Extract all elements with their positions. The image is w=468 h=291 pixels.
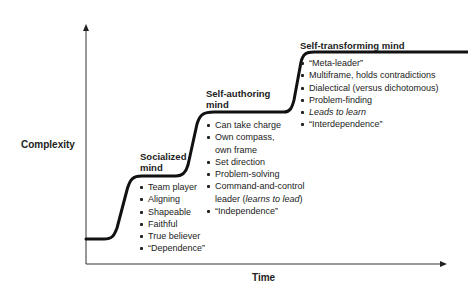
traits-list-socialized: Team player Aligning Shapeable Faithful … — [139, 181, 205, 255]
stage-title-line: Self-authoring — [206, 88, 270, 99]
y-axis-label: Complexity — [21, 139, 75, 150]
trait-item: Problem-finding — [300, 94, 439, 106]
trait-text: ) — [300, 194, 303, 204]
traits-list-self-authoring: Can take charge Own compass, own frame S… — [206, 119, 305, 217]
trait-item: “Interdependence” — [300, 118, 439, 130]
trait-item: Shapeable — [139, 206, 205, 218]
trait-item: Multiframe, holds contradictions — [300, 69, 439, 81]
trait-text: Own compass, — [215, 132, 275, 142]
trait-item: “Independence” — [206, 205, 305, 217]
stage-title-self-authoring: Self-authoring mind — [206, 88, 270, 110]
trait-item: Set direction — [206, 156, 305, 168]
stage-title-socialized: Socialized mind — [140, 151, 186, 173]
stage-title-line: Socialized — [140, 151, 186, 162]
stage-title-self-transforming: Self-transforming mind — [300, 40, 405, 51]
trait-item: Dialectical (versus dichotomous) — [300, 82, 439, 94]
x-axis-arrow-icon — [440, 261, 447, 267]
trait-item: Problem-solving — [206, 168, 305, 180]
trait-item: “Dependence” — [139, 242, 205, 254]
traits-list-self-transforming: “Meta-leader” Multiframe, holds contradi… — [300, 57, 439, 131]
trait-item: Faithful — [139, 218, 205, 230]
trait-text-italic: learns to lead — [246, 194, 300, 204]
stage-title-line: mind — [206, 99, 270, 110]
trait-item: Command-and-control leader (learns to le… — [206, 180, 305, 205]
trait-item: Leads to learn — [300, 106, 439, 118]
trait-text: own frame — [215, 145, 257, 155]
trait-item: “Meta-leader” — [300, 57, 439, 69]
trait-item: Own compass, own frame — [206, 131, 305, 156]
trait-item: True believer — [139, 230, 205, 242]
trait-item: Can take charge — [206, 119, 305, 131]
x-axis-label: Time — [252, 272, 275, 283]
trait-item: Aligning — [139, 193, 205, 205]
trait-text: leader ( — [215, 194, 246, 204]
stage-title-line: mind — [140, 162, 186, 173]
y-axis-arrow-icon — [83, 24, 89, 31]
trait-item: Team player — [139, 181, 205, 193]
trait-text: Command-and-control — [215, 181, 305, 191]
